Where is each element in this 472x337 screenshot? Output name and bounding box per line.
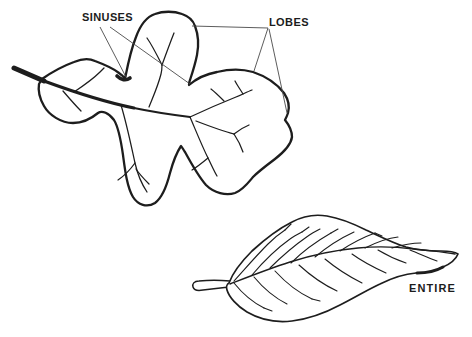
entire-label: ENTIRE (409, 282, 456, 294)
entire-leaf-petiole (193, 280, 230, 290)
leaf-line-art (0, 0, 472, 337)
sinuses-label: SINUSES (82, 11, 133, 23)
lobes-pointer-line-1 (192, 26, 268, 28)
leaf-morphology-diagram: SINUSES LOBES ENTIRE (0, 0, 472, 337)
lobed-leaf-stem (14, 68, 44, 81)
entire-leaf-drawing (193, 215, 458, 321)
entire-leaf-outline (227, 215, 458, 321)
lobed-leaf-drawing (14, 12, 292, 206)
lobes-label: LOBES (269, 16, 309, 28)
lobed-leaf-outline (39, 12, 292, 206)
lobes-pointer-line-2 (254, 28, 268, 71)
